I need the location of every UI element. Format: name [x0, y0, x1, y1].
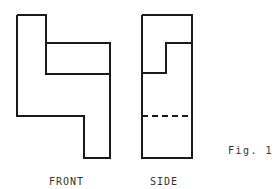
front-view-label: FRONT [49, 176, 84, 187]
side-view [142, 15, 192, 158]
figure-caption: Fig. 1 [228, 145, 273, 156]
front-view [17, 15, 110, 158]
orthographic-drawing [0, 0, 280, 189]
side-view-label: SIDE [150, 176, 178, 187]
front-outline [17, 15, 110, 158]
side-outline [142, 15, 192, 158]
